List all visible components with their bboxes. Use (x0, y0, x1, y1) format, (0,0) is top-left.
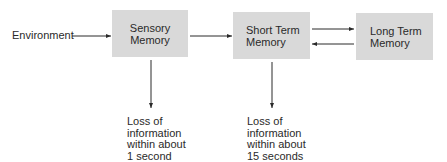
note-line: Loss of (247, 116, 306, 128)
sensory-loss-note: Loss of information within about 1 secon… (127, 116, 186, 161)
note-line: 15 seconds (247, 151, 306, 162)
short-term-memory-node: Short Term Memory (233, 12, 310, 59)
note-line: within about (247, 139, 306, 151)
node-label-line: Sensory (130, 22, 170, 34)
node-label-line: Long Term (370, 25, 422, 37)
note-line: 1 second (127, 151, 186, 162)
node-label-line: Memory (246, 36, 300, 48)
note-line: Loss of (127, 116, 186, 128)
sensory-memory-node: Sensory Memory (112, 10, 188, 57)
node-label-line: Memory (130, 34, 170, 46)
short-term-loss-note: Loss of information within about 15 seco… (247, 116, 306, 161)
node-label-line: Short Term (246, 24, 300, 36)
note-line: within about (127, 139, 186, 151)
environment-label: Environment (12, 30, 74, 42)
long-term-memory-node: Long Term Memory (356, 13, 433, 60)
node-label-line: Memory (370, 37, 422, 49)
